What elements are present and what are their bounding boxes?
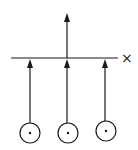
arrowhead-icon	[102, 59, 108, 68]
input-1	[20, 59, 40, 143]
cross-marker-icon: ×	[121, 51, 133, 65]
input-2	[58, 59, 78, 143]
output-arrow	[64, 13, 70, 58]
input-3	[96, 59, 116, 141]
center-dot-icon	[105, 130, 107, 132]
arrowhead-icon	[64, 59, 70, 68]
arrowhead-icon	[27, 59, 33, 68]
center-dot-icon	[29, 132, 31, 134]
arrowhead-icon	[64, 13, 70, 22]
summation-diagram	[0, 0, 138, 150]
center-dot-icon	[67, 132, 69, 134]
